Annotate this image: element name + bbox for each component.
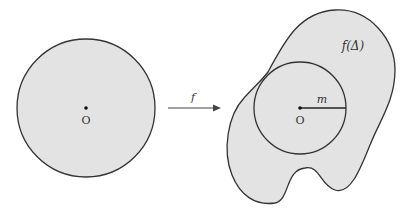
region-label: f(Δ) [341, 39, 365, 53]
right-center-label: O [295, 114, 304, 127]
left-center-label: O [81, 114, 90, 127]
map-arrow: f [168, 91, 221, 112]
radius-label: m [317, 93, 327, 106]
left-disk: O [17, 39, 155, 177]
right-center-point [298, 106, 302, 110]
arrow-head-icon [213, 105, 221, 112]
diagram-canvas: O f O m f(Δ) [0, 0, 410, 218]
arrow-label: f [190, 91, 197, 104]
image-region: O m f(Δ) [227, 10, 395, 204]
left-center-point [84, 106, 88, 110]
